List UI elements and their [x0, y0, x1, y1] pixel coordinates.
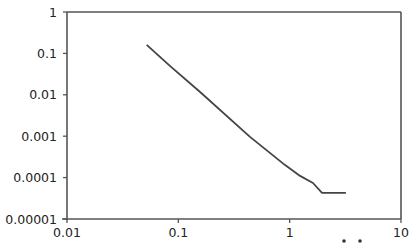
y-tick-label: 0.00001 — [5, 212, 57, 227]
x-tick-label: 0.1 — [168, 225, 188, 240]
chart: 0.010.1110 10.10.010.0010.00010.00001 — [0, 0, 417, 247]
plot-frame — [62, 12, 401, 220]
x-tick-label: 10 — [393, 225, 409, 240]
y-tick-label: 1 — [49, 5, 57, 20]
y-tick-label: 0.0001 — [13, 170, 57, 185]
y-axis: 10.10.010.0010.00010.00001 — [5, 5, 67, 227]
y-tick-label: 0.1 — [37, 46, 57, 61]
series-lines — [147, 45, 346, 193]
annotations — [342, 239, 362, 243]
x-tick-label: 1 — [286, 225, 294, 240]
y-tick-label: 0.001 — [21, 129, 57, 144]
annotation-dot — [358, 239, 362, 243]
x-axis: 0.010.1110 — [53, 219, 409, 240]
x-tick-label: 0.01 — [53, 225, 81, 240]
y-tick-label: 0.01 — [29, 87, 57, 102]
series-line-1 — [147, 45, 346, 193]
annotation-dot — [342, 239, 346, 243]
